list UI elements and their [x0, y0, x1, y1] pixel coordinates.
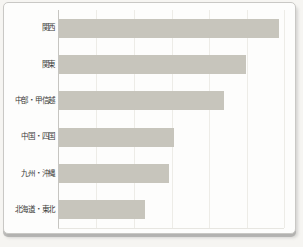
bar-track: [59, 91, 284, 110]
bar-row: 北海道・東北: [4, 192, 284, 228]
bar: [59, 55, 246, 74]
category-label: 関東: [4, 61, 59, 69]
category-label: 中部・甲信越: [4, 97, 59, 105]
category-label: 中国・四国: [4, 133, 59, 141]
category-label: 北海道・東北: [4, 206, 59, 214]
bar-track: [59, 128, 284, 147]
bar-row: 中国・四国: [4, 119, 284, 155]
bar-row: 関東: [4, 46, 284, 82]
bar: [59, 200, 145, 219]
bar-row: 中部・甲信越: [4, 83, 284, 119]
bar: [59, 164, 169, 183]
bar-track: [59, 55, 284, 74]
category-label: 関西: [4, 24, 59, 32]
bar-chart: 関西 関東 中部・甲信越 中国・四国 九州・沖縄 北海道・東北: [4, 3, 295, 233]
bar-track: [59, 164, 284, 183]
bar: [59, 91, 224, 110]
bar: [59, 19, 279, 38]
bar-track: [59, 200, 284, 219]
gridline: [284, 10, 285, 228]
bar-rows: 関西 関東 中部・甲信越 中国・四国 九州・沖縄 北海道・東北: [4, 10, 284, 228]
bar-row: 九州・沖縄: [4, 155, 284, 191]
category-label: 九州・沖縄: [4, 170, 59, 178]
bar-row: 関西: [4, 10, 284, 46]
chart-card: 関西 関東 中部・甲信越 中国・四国 九州・沖縄 北海道・東北: [3, 2, 296, 234]
bar: [59, 128, 174, 147]
bar-track: [59, 19, 284, 38]
